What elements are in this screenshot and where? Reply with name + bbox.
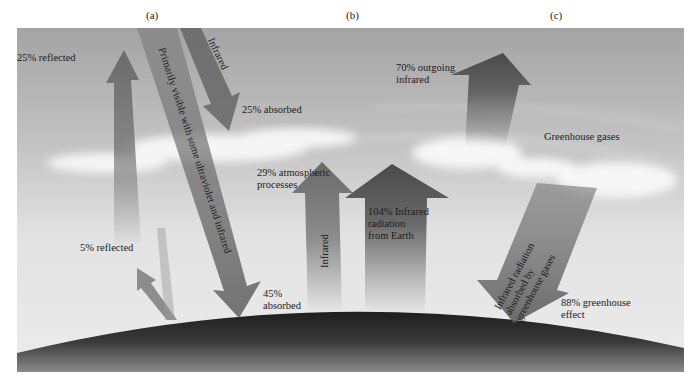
label-70-line1: 70% outgoing — [396, 62, 455, 74]
label-88-line1: 88% greenhouse — [561, 297, 631, 309]
panel-label-c: (c) — [550, 9, 562, 21]
label-104-line1: 104% Infrared — [368, 206, 429, 218]
panel-label-a: (a) — [146, 9, 158, 21]
label-70-line2: infrared — [396, 74, 455, 86]
label-25-absorbed: 25% absorbed — [242, 104, 302, 116]
panel-label-b: (b) — [346, 9, 359, 21]
label-88-greenhouse: 88% greenhouse effect — [561, 297, 631, 321]
label-25-reflected: 25% reflected — [17, 52, 76, 64]
label-greenhouse-gases: Greenhouse gases — [544, 131, 620, 143]
label-infrared-mid: Infrared — [319, 234, 331, 268]
label-45-absorbed: 45% absorbed — [263, 288, 301, 312]
label-29-line1: 29% atmospheric — [257, 167, 330, 179]
energy-balance-scene: 25% reflected Primarily visible with som… — [17, 28, 684, 372]
label-70-outgoing: 70% outgoing infrared — [396, 62, 455, 86]
label-45-line1: 45% — [263, 288, 301, 300]
label-45-line2: absorbed — [263, 300, 301, 312]
label-29-atmospheric: 29% atmospheric processes — [257, 167, 330, 191]
label-104-line3: from Earth — [368, 230, 429, 242]
label-104-infrared: 104% Infrared radiation from Earth — [368, 206, 429, 242]
label-104-line2: radiation — [368, 218, 429, 230]
label-88-line2: effect — [561, 309, 631, 321]
label-29-line2: processes — [257, 179, 330, 191]
label-5-reflected: 5% reflected — [80, 242, 133, 254]
